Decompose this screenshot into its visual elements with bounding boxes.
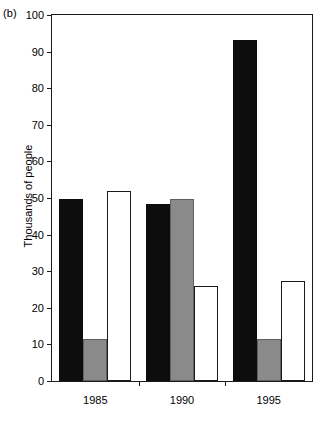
- bar: [194, 286, 218, 381]
- y-tick-label: 100: [26, 9, 44, 21]
- plot-area: 0102030405060708090100 198519901995: [51, 14, 313, 382]
- bar: [233, 40, 257, 381]
- y-tick-label: 90: [32, 46, 44, 58]
- bar: [257, 339, 281, 381]
- y-tick-label: 20: [32, 302, 44, 314]
- y-tick-label: 30: [32, 265, 44, 277]
- x-tick-label: 1990: [170, 394, 194, 406]
- panel-label: (b): [3, 7, 17, 19]
- y-tick-label: 40: [32, 229, 44, 241]
- bar: [107, 191, 131, 381]
- y-tick-label: 80: [32, 82, 44, 94]
- y-tick-label: 10: [32, 338, 44, 350]
- bar: [146, 204, 170, 381]
- figure-panel-b: (b) Thousands of people 0102030405060708…: [0, 0, 323, 423]
- x-tick-mark: [139, 381, 140, 386]
- y-tick-label: 0: [38, 375, 44, 387]
- y-tick-label: 50: [32, 192, 44, 204]
- x-tick-label: 1985: [83, 394, 107, 406]
- y-tick-mark: [47, 381, 52, 382]
- bar: [281, 281, 305, 381]
- bar: [83, 339, 107, 381]
- x-tick-mark: [225, 381, 226, 386]
- x-tick-label: 1995: [256, 394, 280, 406]
- y-tick-label: 60: [32, 155, 44, 167]
- y-tick-label: 70: [32, 119, 44, 131]
- bar: [170, 199, 194, 381]
- bars-layer: [52, 15, 312, 381]
- bar: [59, 199, 83, 381]
